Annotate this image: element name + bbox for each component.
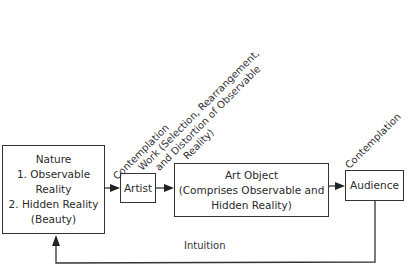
arrowhead-to-artist [110,184,120,192]
arrowhead-to-nature [52,235,60,246]
edge-label-intuition: Intuition [184,240,225,251]
arrowhead-to-audience [335,182,345,190]
